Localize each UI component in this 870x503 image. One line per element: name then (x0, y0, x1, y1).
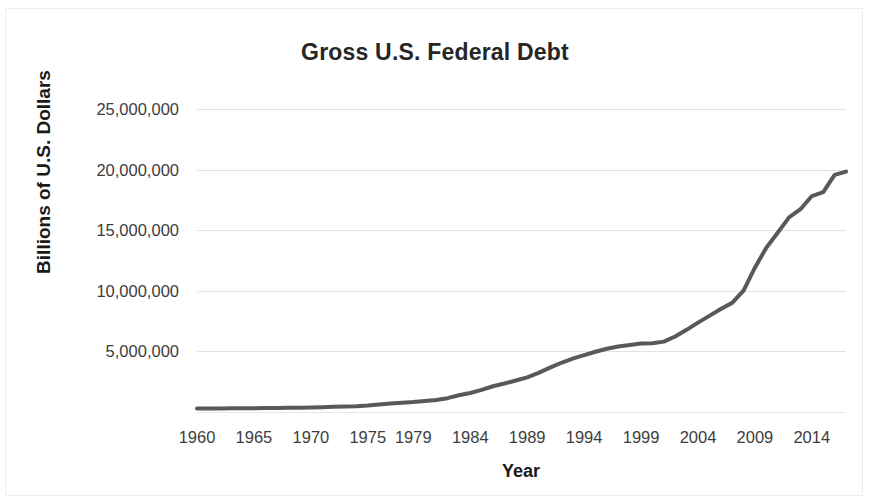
x-tick-label: 1999 (614, 428, 668, 447)
x-tick-label: 1984 (443, 428, 497, 447)
y-tick-label: 20,000,000 (49, 160, 179, 179)
series-line-chart (197, 97, 846, 412)
x-tick-label: 1960 (170, 428, 224, 447)
x-tick-label: 1994 (557, 428, 611, 447)
x-tick-label: 2004 (671, 428, 725, 447)
y-tick-label: 15,000,000 (49, 221, 179, 240)
chart-title: Gross U.S. Federal Debt (6, 39, 864, 66)
axis-baseline (197, 412, 846, 413)
y-axis-tick-labels: 5,000,00010,000,00015,000,00020,000,0002… (49, 97, 179, 412)
x-tick-label: 1970 (284, 428, 338, 447)
x-tick-label: 2014 (785, 428, 839, 447)
y-tick-label: 25,000,000 (49, 100, 179, 119)
x-tick-label: 1965 (227, 428, 281, 447)
chart-container: Gross U.S. Federal Debt Billions of U.S.… (5, 8, 863, 496)
x-axis-title: Year (196, 461, 846, 482)
series-line-gross-federal-debt (197, 172, 846, 409)
x-axis-tick-labels: 1960196519701975197919841989199419992004… (197, 428, 846, 452)
y-tick-label: 5,000,000 (49, 342, 179, 361)
y-tick-label: 10,000,000 (49, 281, 179, 300)
plot-area (197, 97, 846, 412)
x-tick-label: 1979 (386, 428, 440, 447)
x-tick-label: 1989 (500, 428, 554, 447)
x-tick-label: 2009 (728, 428, 782, 447)
